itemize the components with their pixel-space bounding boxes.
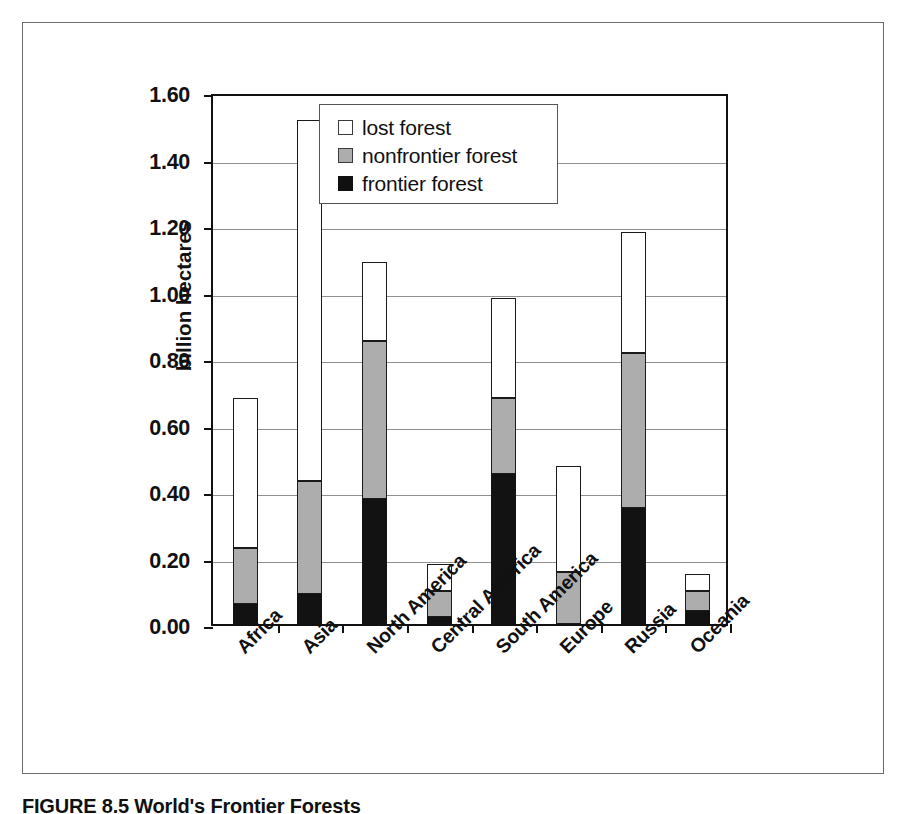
y-tick-label: 1.40 (149, 149, 190, 174)
bar-segment-nonfrontier-forest[interactable] (685, 591, 710, 611)
y-tick: 1.60 (204, 95, 213, 97)
legend-label: frontier forest (362, 172, 483, 196)
chart-legend: lost forest nonfrontier forest frontier … (319, 104, 558, 204)
gridline (213, 362, 726, 363)
bar-segment-nonfrontier-forest[interactable] (491, 398, 516, 474)
y-tick: 1.20 (204, 228, 213, 230)
y-tick: 0.60 (204, 428, 213, 430)
y-tick-label: 1.60 (149, 83, 190, 108)
gridline (213, 495, 726, 496)
bar-stack[interactable] (556, 92, 581, 624)
legend-item-lost-forest: lost forest (338, 114, 557, 141)
bar-segment-lost-forest[interactable] (491, 298, 516, 398)
figure-frame: billion hectares 0.000.200.400.600.801.0… (22, 22, 884, 774)
legend-item-nonfrontier-forest: nonfrontier forest (338, 142, 557, 169)
y-tick-label: 0.00 (149, 615, 190, 640)
y-tick: 1.00 (204, 295, 213, 297)
bar-segment-frontier-forest[interactable] (362, 499, 387, 624)
y-tick-label: 0.80 (149, 349, 190, 374)
y-tick: 0.20 (204, 561, 213, 563)
bar-stack[interactable] (621, 92, 646, 624)
y-tick-label: 1.00 (149, 282, 190, 307)
bar-segment-nonfrontier-forest[interactable] (621, 353, 646, 508)
legend-swatch-gray-icon (338, 148, 353, 163)
y-tick: 0.80 (204, 361, 213, 363)
bar-segment-frontier-forest[interactable] (621, 508, 646, 624)
bar-stack[interactable] (685, 92, 710, 624)
gridline (213, 296, 726, 297)
legend-label: nonfrontier forest (362, 144, 517, 168)
y-tick-label: 0.20 (149, 548, 190, 573)
y-tick-label: 0.40 (149, 482, 190, 507)
gridline (213, 429, 726, 430)
y-tick: 0.40 (204, 494, 213, 496)
y-tick: 1.40 (204, 162, 213, 164)
bar-segment-lost-forest[interactable] (685, 574, 710, 591)
legend-swatch-white-icon (338, 120, 353, 135)
bar-segment-nonfrontier-forest[interactable] (297, 481, 322, 594)
bar-stack[interactable] (233, 92, 258, 624)
bar-segment-lost-forest[interactable] (362, 262, 387, 342)
gridline (213, 562, 726, 563)
y-tick: 0.00 (204, 627, 213, 629)
legend-item-frontier-forest: frontier forest (338, 170, 557, 197)
bar-segment-lost-forest[interactable] (621, 232, 646, 353)
y-tick-label: 0.60 (149, 415, 190, 440)
legend-label: lost forest (362, 116, 451, 140)
bar-segment-nonfrontier-forest[interactable] (233, 548, 258, 605)
x-tick (342, 624, 344, 633)
stacked-bar-chart: billion hectares 0.000.200.400.600.801.0… (23, 23, 885, 775)
legend-swatch-black-icon (338, 176, 353, 191)
y-tick-label: 1.20 (149, 216, 190, 241)
bar-segment-lost-forest[interactable] (233, 398, 258, 548)
bar-segment-nonfrontier-forest[interactable] (362, 341, 387, 499)
figure-caption: FIGURE 8.5 World's Frontier Forests (22, 795, 361, 814)
gridline (213, 229, 726, 230)
